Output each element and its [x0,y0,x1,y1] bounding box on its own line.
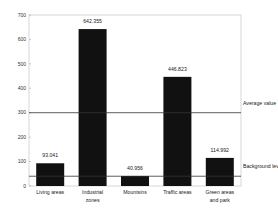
x-category-label: Traffic areas [163,189,192,195]
y-tick-label: 700 [18,12,27,18]
bar [36,163,64,186]
y-tick-label: 100 [18,158,27,164]
y-tick-label: 300 [18,109,27,115]
y-tick-label: 0 [23,183,26,189]
x-category-label: Green areas [205,189,234,195]
bar-value-label: 642.355 [83,18,102,24]
x-category-label: Mountsins [123,189,147,195]
y-tick-label: 200 [18,134,27,140]
x-category-label: Living areas [36,189,64,195]
bar-value-label: 446.823 [168,66,187,72]
x-category-label: and park [210,197,231,203]
bar-chart: 010020030040050060070093.041Living areas… [0,0,278,214]
x-category-label: Industrial [82,189,103,195]
y-tick-label: 500 [18,61,27,67]
x-category-label: zones [86,197,100,203]
bar [121,176,149,186]
bar [163,77,191,186]
reference-line-label: Background level [243,163,278,169]
bar [206,158,234,186]
y-tick-label: 600 [18,36,27,42]
reference-line-label: Average value [243,100,276,106]
plot-area: 010020030040050060070093.041Living areas… [18,12,278,203]
y-tick-label: 400 [18,85,27,91]
bar-value-label: 114.992 [211,147,229,153]
bar-value-label: 40.956 [127,165,143,171]
bar-value-label: 93.041 [42,152,58,158]
bar [79,29,107,186]
